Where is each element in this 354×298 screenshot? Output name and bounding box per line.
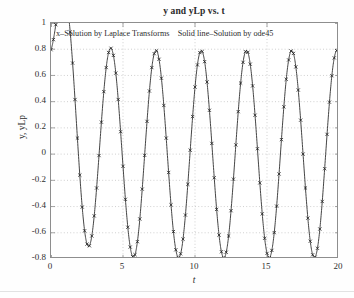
ytick-label-8: -0.6 [2, 227, 46, 236]
chart-canvas [51, 23, 338, 258]
xtick-label-2: 10 [174, 261, 214, 271]
ytick-label-6: -0.2 [2, 175, 46, 184]
xtick-label-0: 0 [30, 261, 70, 271]
figure-container: y and yLp vs. t 1 0.8 0.6 0.4 0.2 0 -0.2… [0, 0, 354, 298]
page-title: y and yLp vs. t [50, 6, 338, 16]
xtick-label-4: 20 [318, 261, 354, 271]
plot-area [50, 22, 338, 258]
xtick-label-3: 15 [246, 261, 286, 271]
ytick-label-2: 0.6 [2, 70, 46, 79]
legend-note: x–Solution by Laplace Transforms Solid l… [56, 29, 273, 38]
page-edge-line [0, 291, 354, 292]
series-line-ode45 [51, 23, 338, 258]
y-axis-label: y, yLp [17, 97, 27, 157]
ytick-label-0: 1 [2, 18, 46, 27]
ytick-label-1: 0.8 [2, 44, 46, 53]
x-axis-label: t [50, 275, 338, 285]
xtick-label-1: 5 [102, 261, 142, 271]
ytick-label-7: -0.4 [2, 201, 46, 210]
